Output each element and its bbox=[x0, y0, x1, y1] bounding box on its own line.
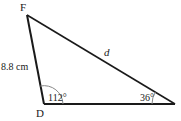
angle-label-e: 36° bbox=[140, 92, 154, 103]
side-label-fe: d bbox=[104, 46, 110, 58]
vertex-label-f: F bbox=[20, 1, 26, 13]
side-label-fd: 8.8 cm bbox=[1, 61, 28, 72]
triangle-diagram: F D 8.8 cm d 112° 36° bbox=[0, 0, 181, 121]
side-fe bbox=[27, 15, 175, 104]
vertex-label-d: D bbox=[36, 107, 44, 119]
angle-label-d: 112° bbox=[48, 92, 67, 103]
side-fd bbox=[27, 15, 44, 104]
